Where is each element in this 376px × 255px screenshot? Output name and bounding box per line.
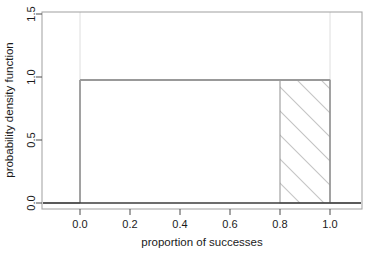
figure-container: 0.0 0.5 1.0 1.5 0.0 0.2 0.4 0.6 0.8 1.0 … [0, 0, 376, 255]
x-tick-label-1: 0.2 [122, 218, 137, 230]
x-tick-label-2: 0.4 [172, 218, 187, 230]
shaded-region-hatch-fill [280, 80, 330, 203]
y-tick-label-3: 1.5 [25, 6, 37, 21]
x-tick-label-5: 1.0 [322, 218, 337, 230]
x-axis-title: proportion of successes [141, 236, 263, 248]
x-tick-label-0: 0.0 [72, 218, 87, 230]
x-tick-label-4: 0.8 [272, 218, 287, 230]
x-tick-label-3: 0.6 [222, 218, 237, 230]
y-axis-title: probability density function [3, 42, 15, 178]
y-tick-label-1: 0.5 [25, 132, 37, 147]
y-tick-label-2: 1.0 [25, 69, 37, 84]
shaded-region [280, 80, 330, 203]
y-tick-label-0: 0.0 [25, 195, 37, 210]
chart-canvas: 0.0 0.5 1.0 1.5 0.0 0.2 0.4 0.6 0.8 1.0 … [0, 0, 376, 255]
